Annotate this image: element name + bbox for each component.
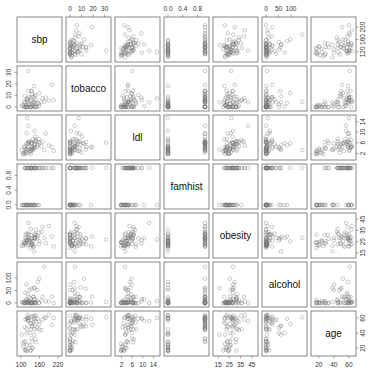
panel-ldl-tobacco: [66, 115, 111, 160]
left-tick-label-tobacco: 30: [5, 68, 12, 76]
right-tick-label-sbp: 160: [359, 34, 366, 45]
bottom-tick-label-age: 40: [330, 361, 338, 368]
bottom-tick-label-age: 20: [315, 361, 323, 368]
panel-age-famhist: [164, 311, 209, 356]
variable-label-sbp: sbp: [31, 34, 48, 45]
right-tick-label-age: 40: [359, 329, 366, 337]
bottom-tick-label-ldl: 10: [139, 361, 147, 368]
panel-sbp-famhist: [164, 17, 209, 62]
top-tick-label-famhist: 0.4: [178, 5, 187, 12]
panel-famhist-ldl: [115, 164, 160, 209]
top-tick-label-alcohol: 50: [275, 5, 283, 12]
right-tick-label-age: 20: [359, 344, 366, 352]
right-tick-label-obesity: 35: [359, 226, 366, 234]
top-tick-label-alcohol: 100: [286, 5, 297, 12]
bottom-tick-label-ldl: 2: [120, 361, 124, 368]
top-tick-label-famhist: 0.0: [163, 5, 172, 12]
panel-famhist-obesity: [213, 164, 258, 209]
panel-tobacco-famhist: [164, 66, 209, 111]
right-tick-label-ldl: 14: [359, 118, 366, 126]
variable-label-obesity: obesity: [220, 230, 252, 241]
left-tick-label-famhist: 0.8: [5, 171, 12, 180]
panel-sbp-ldl: [115, 17, 160, 62]
top-tick-label-famhist: 0.8: [193, 5, 202, 12]
left-tick-label-alcohol: 100: [5, 272, 12, 283]
right-tick-label-obesity: 45: [359, 215, 366, 223]
pairs-plot: sbptobaccoldlfamhistobesityalcoholage010…: [0, 0, 376, 384]
panel-famhist-tobacco: [66, 164, 111, 209]
bottom-tick-label-ldl: 14: [150, 361, 158, 368]
left-tick-label-alcohol: 50: [5, 287, 12, 295]
left-tick-label-famhist: 0.0: [5, 200, 12, 209]
right-tick-label-obesity: 15: [359, 249, 366, 257]
top-tick-label-tobacco: 10: [78, 5, 86, 12]
right-tick-label-sbp: 200: [359, 21, 366, 32]
bottom-tick-label-obesity: 45: [248, 361, 256, 368]
top-tick-label-tobacco: 0: [68, 5, 72, 12]
right-tick-label-ldl: 6: [359, 141, 366, 145]
panel-age-obesity: [213, 311, 258, 356]
top-tick-label-tobacco: 30: [101, 5, 109, 12]
panel-obesity-ldl: [115, 213, 160, 258]
left-tick-label-famhist: 0.4: [5, 185, 12, 194]
panel-tobacco-ldl: [115, 66, 160, 111]
left-tick-label-tobacco: 10: [5, 91, 12, 99]
panel-ldl-sbp: [17, 115, 62, 160]
top-tick-label-alcohol: 0: [264, 5, 268, 12]
left-tick-label-tobacco: 20: [5, 80, 12, 88]
variable-label-alcohol: alcohol: [269, 279, 301, 290]
right-tick-label-ldl: 10: [359, 128, 366, 136]
panel-obesity-famhist: [164, 213, 209, 258]
variable-label-ldl: ldl: [132, 132, 142, 143]
bottom-tick-label-ldl: 6: [130, 361, 134, 368]
variable-label-famhist: famhist: [170, 181, 202, 192]
right-tick-label-ldl: 2: [359, 151, 366, 155]
top-tick-label-tobacco: 20: [90, 5, 98, 12]
variable-label-age: age: [325, 328, 342, 339]
panel-ldl-famhist: [164, 115, 209, 160]
panel-obesity-age: [311, 213, 356, 258]
panel-famhist-alcohol: [262, 164, 307, 209]
bottom-tick-label-obesity: 35: [237, 361, 245, 368]
right-tick-label-age: 60: [359, 314, 366, 322]
panel-alcohol-famhist: [164, 262, 209, 307]
panel-famhist-sbp: [17, 164, 62, 209]
bottom-tick-label-obesity: 15: [215, 361, 223, 368]
panel-famhist-age: [311, 164, 356, 209]
bottom-tick-label-sbp: 100: [16, 361, 27, 368]
variable-label-tobacco: tobacco: [71, 83, 106, 94]
bottom-tick-label-age: 60: [345, 361, 353, 368]
bottom-tick-label-sbp: 220: [53, 361, 64, 368]
bottom-tick-label-sbp: 160: [34, 361, 45, 368]
left-tick-label-tobacco: 0: [5, 105, 12, 109]
left-tick-label-alcohol: 0: [5, 301, 12, 305]
right-tick-label-obesity: 25: [359, 238, 366, 246]
panel-ldl-obesity: [213, 115, 258, 160]
bottom-tick-label-obesity: 25: [226, 361, 234, 368]
right-tick-label-sbp: 120: [359, 46, 366, 57]
